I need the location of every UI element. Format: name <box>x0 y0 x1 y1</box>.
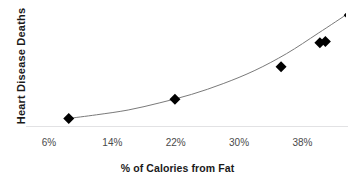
x-axis-tick-label: 14% <box>102 137 122 148</box>
x-axis-tick-label: 6% <box>42 137 56 148</box>
x-axis-tick-labels: 6%14%22%30%38% <box>0 137 355 151</box>
data-point-marker <box>276 61 287 72</box>
x-axis-title: % of Calories from Fat <box>0 162 355 174</box>
x-axis-line <box>26 126 348 127</box>
plot-svg <box>26 8 346 128</box>
x-axis-tick-label: 30% <box>229 137 249 148</box>
x-axis-tick-label: 22% <box>166 137 186 148</box>
data-point-marker <box>63 113 74 124</box>
trend-curve <box>69 13 346 119</box>
data-point-marker <box>169 94 180 105</box>
data-point-marker <box>344 10 346 21</box>
plot-area <box>26 8 346 128</box>
scatter-chart-figure: Heart Disease Deaths 6%14%22%30%38% % of… <box>0 0 355 184</box>
trend-curve-path <box>69 13 346 119</box>
x-axis-tick-label: 38% <box>292 137 312 148</box>
data-point-markers <box>63 10 346 124</box>
